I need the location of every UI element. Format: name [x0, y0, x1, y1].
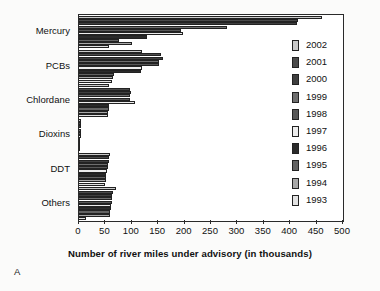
legend-label-2001: 2001 — [306, 56, 327, 68]
y-axis-label-mercury: Mercury — [36, 26, 70, 36]
x-tick-250 — [210, 220, 211, 224]
x-tick-350 — [263, 220, 264, 224]
legend-swatch-icon-1998 — [292, 109, 299, 120]
bar-chlordane-1993 — [79, 114, 108, 117]
x-tick-200 — [184, 220, 185, 224]
y-axis-category-labels: MercuryPCBsChlordaneDioxinsDDTOthers — [0, 14, 74, 220]
legend-item-1996[interactable]: 1996 — [286, 141, 340, 156]
legend-swatch-icon-1993 — [292, 195, 299, 206]
legend-item-2001[interactable]: 2001 — [286, 55, 340, 70]
x-tick-label-500: 500 — [334, 226, 350, 236]
x-axis-tick-labels: 050100150200250300350400450500 — [0, 226, 380, 240]
legend-swatch-icon-2001 — [292, 57, 299, 68]
y-axis-label-others: Others — [41, 198, 70, 208]
x-tick-label-300: 300 — [228, 226, 244, 236]
x-tick-label-0: 0 — [75, 226, 80, 236]
legend-item-2002[interactable]: 2002 — [286, 38, 340, 53]
chart-legend: 2002200120001999199819971996199519941993 — [286, 38, 340, 210]
x-tick-150 — [157, 220, 158, 224]
x-tick-300 — [236, 220, 237, 224]
x-tick-100 — [131, 220, 132, 224]
bar-ddt-1993 — [79, 183, 105, 186]
legend-label-1997: 1997 — [306, 125, 327, 137]
x-tick-label-250: 250 — [202, 226, 218, 236]
legend-label-1995: 1995 — [306, 159, 327, 171]
x-tick-0 — [78, 220, 79, 224]
legend-label-2000: 2000 — [306, 73, 327, 85]
x-tick-450 — [316, 220, 317, 224]
x-tick-50 — [104, 220, 105, 224]
bar-pcbs-1993 — [79, 80, 112, 83]
legend-swatch-icon-2000 — [292, 74, 299, 85]
legend-swatch-icon-1995 — [292, 160, 299, 171]
legend-item-1993[interactable]: 1993 — [286, 193, 340, 208]
legend-label-1993: 1993 — [306, 194, 327, 206]
legend-swatch-icon-1994 — [292, 178, 299, 189]
legend-label-1994: 1994 — [306, 177, 327, 189]
y-axis-label-ddt: DDT — [50, 164, 70, 174]
y-axis-label-chlordane: Chlordane — [26, 95, 70, 105]
legend-item-2000[interactable]: 2000 — [286, 72, 340, 87]
x-tick-500 — [342, 220, 343, 224]
legend-swatch-icon-1997 — [292, 126, 299, 137]
x-tick-label-50: 50 — [99, 226, 110, 236]
legend-label-1998: 1998 — [306, 108, 327, 120]
y-axis-label-dioxins: Dioxins — [39, 129, 70, 139]
legend-item-1999[interactable]: 1999 — [286, 90, 340, 105]
y-axis-label-pcbs: PCBs — [46, 61, 70, 71]
legend-swatch-icon-1996 — [292, 143, 299, 154]
legend-swatch-icon-1999 — [292, 92, 299, 103]
x-axis-title: Number of river miles under advisory (in… — [0, 248, 380, 259]
bar-mercury-1993 — [79, 45, 109, 48]
x-tick-label-100: 100 — [123, 226, 139, 236]
legend-item-1994[interactable]: 1994 — [286, 176, 340, 191]
figure-panel-a: MercuryPCBsChlordaneDioxinsDDTOthers 050… — [0, 0, 380, 291]
legend-label-1999: 1999 — [306, 91, 327, 103]
x-tick-label-400: 400 — [281, 226, 297, 236]
panel-letter: A — [14, 266, 20, 277]
x-tick-label-200: 200 — [176, 226, 192, 236]
x-tick-label-350: 350 — [255, 226, 271, 236]
x-tick-400 — [289, 220, 290, 224]
x-tick-label-450: 450 — [308, 226, 324, 236]
legend-swatch-icon-2002 — [292, 40, 299, 51]
legend-item-1995[interactable]: 1995 — [286, 158, 340, 173]
legend-item-1998[interactable]: 1998 — [286, 107, 340, 122]
x-tick-label-150: 150 — [149, 226, 165, 236]
bar-dioxins-1993 — [79, 148, 80, 151]
legend-item-1997[interactable]: 1997 — [286, 124, 340, 139]
legend-label-1996: 1996 — [306, 142, 327, 154]
legend-label-2002: 2002 — [306, 39, 327, 51]
